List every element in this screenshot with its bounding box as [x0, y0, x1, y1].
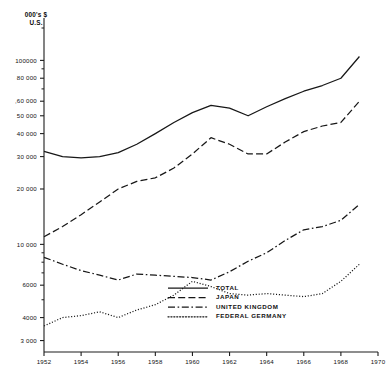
data-series-group [44, 57, 359, 327]
x-tick-label: 1962 [222, 358, 237, 365]
chart-legend: TOTALJAPANUNITED KINGDOMFEDERAL GERMANY [168, 284, 287, 320]
y-axis-title-line1: 000's $ [25, 11, 48, 19]
y-tick-label: ,60 000 [15, 97, 37, 104]
series-line-japan [44, 101, 359, 237]
x-tick-label: 1970 [371, 358, 386, 365]
y-tick-label: 30 000 [17, 153, 37, 160]
x-tick-label: 1958 [148, 358, 163, 365]
series-line-united-kingdom [44, 204, 359, 280]
legend-label-total: TOTAL [216, 284, 239, 291]
y-tick-label: 20 000 [17, 185, 37, 192]
chart-canvas: 000's $ U.S. 3 0004000600010 00020 00030… [0, 0, 392, 383]
series-line-federal-germany [44, 264, 359, 326]
line-chart: 000's $ U.S. 3 0004000600010 00020 00030… [0, 0, 392, 383]
x-tick-label: 1956 [111, 358, 126, 365]
y-tick-label: 4000 [22, 314, 37, 321]
y-axis-title-line2: U.S. [29, 19, 42, 26]
legend-label-federal-germany: FEDERAL GERMANY [216, 312, 287, 319]
y-tick-label: 10 000 [17, 241, 37, 248]
legend-label-united-kingdom: UNITED KINGDOM [216, 303, 278, 310]
x-tick-label: 1964 [259, 358, 274, 365]
x-tick-label: 1952 [37, 358, 52, 365]
y-tick-label: 80 000 [17, 74, 37, 81]
series-line-total [44, 57, 359, 158]
y-tick-label: 6000 [22, 281, 37, 288]
y-tick-label: 50 000 [17, 112, 37, 119]
y-tick-label: 100000 [15, 57, 37, 64]
y-tick-label: 40 000 [17, 130, 37, 137]
legend-label-japan: JAPAN [216, 293, 239, 300]
x-tick-label: 1960 [185, 358, 200, 365]
y-axis: 3 0004000600010 00020 00030 00040 00050 … [15, 18, 44, 352]
x-axis: 1952195419561958196019621964196619681970 [37, 352, 386, 365]
x-tick-label: 1954 [74, 358, 89, 365]
x-tick-label: 1968 [334, 358, 349, 365]
x-tick-label: 1966 [296, 358, 311, 365]
y-tick-label: 3 000 [21, 337, 38, 344]
